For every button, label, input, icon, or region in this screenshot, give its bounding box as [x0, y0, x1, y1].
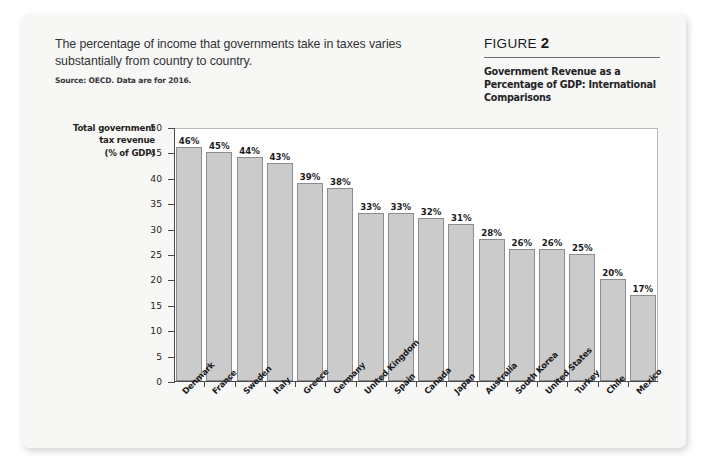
x-axis-tick	[356, 382, 357, 387]
y-axis-tick-label: 10	[102, 325, 162, 336]
figure-word: FIGURE	[484, 36, 537, 51]
bar-value-label: 25%	[563, 243, 601, 253]
y-axis-tick-label: 30	[102, 224, 162, 235]
x-axis-tick	[416, 382, 417, 387]
y-axis-tick-label: 40	[102, 173, 162, 184]
chart-container: Total government tax revenue (% of GDP) …	[22, 100, 686, 448]
x-axis-tick	[598, 382, 599, 387]
y-axis-tick	[168, 204, 175, 205]
y-axis-tick	[168, 306, 175, 307]
figure-page-card: The percentage of income that government…	[22, 14, 686, 448]
y-axis-tick-label: 45	[102, 147, 162, 158]
y-axis-tick	[168, 382, 175, 383]
y-axis-tick	[168, 280, 175, 281]
x-axis-tick	[628, 382, 629, 387]
y-axis-tick	[168, 357, 175, 358]
y-axis-tick	[168, 153, 175, 154]
y-axis-tick	[168, 128, 175, 129]
x-axis-tick	[204, 382, 205, 387]
y-axis-tick	[168, 179, 175, 180]
bar[interactable]	[327, 188, 353, 381]
y-axis-tick-label: 5	[102, 351, 162, 362]
y-axis-tick-label: 35	[102, 198, 162, 209]
bar-value-label: 17%	[624, 284, 662, 294]
bar-value-label: 28%	[473, 228, 511, 238]
bar[interactable]	[600, 279, 626, 381]
x-axis-tick	[386, 382, 387, 387]
bar-value-label: 31%	[442, 213, 480, 223]
bar[interactable]	[297, 183, 323, 381]
bar[interactable]	[418, 218, 444, 381]
bar[interactable]	[630, 295, 656, 381]
bar[interactable]	[358, 213, 384, 381]
x-axis-tick	[507, 382, 508, 387]
bar[interactable]	[176, 147, 202, 381]
bar-value-label: 38%	[321, 177, 359, 187]
bar[interactable]	[206, 152, 232, 381]
x-axis-tick	[567, 382, 568, 387]
y-axis-tick-label: 50	[102, 122, 162, 133]
x-axis-tick	[235, 382, 236, 387]
bar[interactable]	[479, 239, 505, 381]
source-note: Source: OECD. Data are for 2016.	[55, 76, 445, 85]
x-axis-tick	[325, 382, 326, 387]
bar[interactable]	[267, 163, 293, 381]
headline-text: The percentage of income that government…	[55, 36, 445, 70]
figure-divider	[484, 57, 660, 58]
y-axis-tick	[168, 331, 175, 332]
figure-number: 2	[541, 34, 550, 51]
y-axis-tick-label: 25	[102, 249, 162, 260]
bar-value-label: 43%	[261, 152, 299, 162]
y-axis-title-line-2: tax revenue	[22, 134, 155, 146]
bar[interactable]	[448, 224, 474, 381]
x-axis-tick	[265, 382, 266, 387]
y-axis-tick-label: 20	[102, 274, 162, 285]
figure-label-row: FIGURE2	[484, 34, 660, 51]
y-axis-tick	[168, 255, 175, 256]
bar[interactable]	[237, 157, 263, 381]
x-axis-tick	[537, 382, 538, 387]
x-axis-tick	[446, 382, 447, 387]
figure-title: Government Revenue as a Percentage of GD…	[484, 65, 664, 104]
x-axis-tick	[295, 382, 296, 387]
bar-value-label: 20%	[594, 268, 632, 278]
y-axis-tick-label: 0	[102, 376, 162, 387]
x-axis-tick	[477, 382, 478, 387]
y-axis-tick	[168, 230, 175, 231]
y-axis-tick-label: 15	[102, 300, 162, 311]
figure-caption-block: FIGURE2 Government Revenue as a Percenta…	[484, 34, 660, 104]
